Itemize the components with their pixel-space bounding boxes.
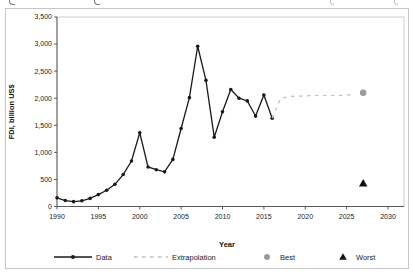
y-tick-label: 3,500 <box>34 13 52 20</box>
y-tick-label: 3,000 <box>34 40 52 47</box>
legend-data-label: Data <box>96 253 113 262</box>
y-tick-label: 2,000 <box>34 95 52 102</box>
legend-worst-marker <box>339 253 347 260</box>
data-point <box>204 79 208 83</box>
y-tick-label: 0 <box>48 203 52 210</box>
data-point <box>105 188 109 192</box>
worst-marker <box>359 179 367 186</box>
data-point <box>262 93 266 97</box>
data-line <box>57 46 272 201</box>
x-tick-label: 2025 <box>339 213 355 220</box>
x-tick-label: 2030 <box>380 213 396 220</box>
x-tick-label: 2010 <box>215 213 231 220</box>
data-point <box>254 114 258 118</box>
data-point <box>146 165 150 169</box>
data-point <box>221 110 225 114</box>
data-point <box>121 173 125 177</box>
legend-extrapolation-label: Extrapolation <box>172 253 216 262</box>
y-tick-label: 2,500 <box>34 68 52 75</box>
data-point <box>88 197 92 201</box>
data-point <box>80 199 84 203</box>
best-marker <box>360 90 366 96</box>
data-point <box>246 99 250 103</box>
legend-best-label: Best <box>280 253 296 262</box>
data-point <box>97 193 101 197</box>
extrapolation-line <box>272 95 355 118</box>
data-point <box>212 135 216 139</box>
x-axis-title: Year <box>219 240 235 249</box>
fdi-line-chart: 05001,0001,5002,0002,5003,0003,500199019… <box>0 0 413 272</box>
x-tick-label: 1990 <box>49 213 65 220</box>
plot-area <box>57 17 404 207</box>
y-tick-label: 1,000 <box>34 149 52 156</box>
x-tick-label: 1995 <box>91 213 107 220</box>
x-tick-label: 2015 <box>256 213 272 220</box>
y-tick-label: 500 <box>40 176 52 183</box>
data-point <box>130 159 134 163</box>
data-point <box>113 183 117 187</box>
y-axis-title: FDI, billion US$ <box>7 83 16 139</box>
x-tick-label: 2005 <box>173 213 189 220</box>
y-tick-label: 1,500 <box>34 122 52 129</box>
data-point <box>171 158 175 162</box>
data-point <box>63 199 67 203</box>
x-tick-label: 2000 <box>132 213 148 220</box>
data-point <box>55 196 59 200</box>
data-point <box>179 127 183 131</box>
data-point <box>229 88 233 92</box>
chart-figure: 05001,0001,5002,0002,5003,0003,500199019… <box>0 0 413 272</box>
data-point <box>155 168 159 172</box>
data-point <box>188 96 192 100</box>
data-point <box>163 170 167 174</box>
legend-data-dot <box>71 255 75 259</box>
legend-best-marker <box>264 254 270 260</box>
data-point <box>196 44 200 48</box>
data-point <box>138 131 142 135</box>
data-point <box>72 200 76 204</box>
x-tick-label: 2020 <box>297 213 313 220</box>
data-point <box>237 96 241 100</box>
legend-worst-label: Worst <box>356 253 376 262</box>
